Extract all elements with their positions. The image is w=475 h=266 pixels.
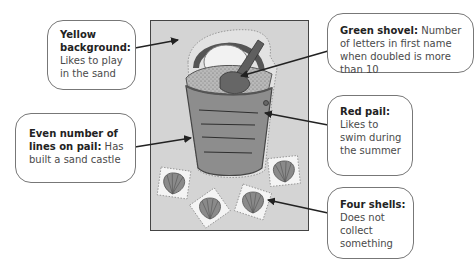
arrow-red-pail [265,113,328,125]
pail-icon [186,30,277,178]
arrow-yellow-background [135,40,178,48]
callout-title: Yellow background: [60,29,131,53]
shell-icon [268,156,301,187]
shell-icon [157,167,191,199]
shell-icon [234,184,271,220]
arrow-four-shells [268,200,328,213]
callout-red-pail: Red pail: Likes to swim during the summe… [327,95,413,176]
arrow-even-lines [135,138,191,147]
shell-icon [190,188,231,229]
callout-text: Does not collect something [340,212,393,249]
callout-text: Likes to play in the sand [60,55,123,79]
callout-title: Four shells: [340,199,406,210]
callout-title: Red pail: [340,106,390,117]
callout-even-lines: Even number of lines on pail: Has built … [15,113,136,183]
callout-green-shovel: Green shovel: Number of letters in first… [327,13,474,73]
callout-text: Likes to swim during the summer [340,119,401,156]
callout-four-shells: Four shells: Does not collect something [327,187,414,259]
callout-title: Green shovel: [340,25,418,36]
callout-yellow-background: Yellow background: Likes to play in the … [47,20,136,90]
